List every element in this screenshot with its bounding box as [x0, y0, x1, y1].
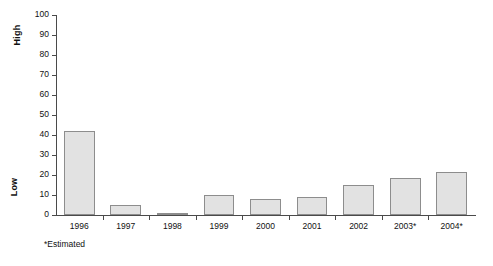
bar-slot — [103, 15, 150, 215]
x-axis-category-label: 2002 — [335, 221, 382, 231]
bar — [390, 178, 421, 215]
y-axis-low-label: Low — [9, 167, 19, 207]
x-axis-tick-mark — [335, 216, 336, 220]
y-axis-tick-label: 90 — [40, 29, 49, 39]
y-axis-tick-label: 10 — [40, 189, 49, 199]
y-axis-tick-label: 30 — [40, 149, 49, 159]
y-axis-tick: 100 — [0, 15, 56, 16]
x-axis-category-label: 2001 — [289, 221, 336, 231]
y-axis-tick-label: 0 — [44, 209, 49, 219]
y-axis-tick-label: 20 — [40, 169, 49, 179]
x-axis-category-label: 1996 — [56, 221, 103, 231]
x-axis-tick-mark — [382, 216, 383, 220]
bar — [297, 197, 328, 215]
y-axis-tick-label: 100 — [35, 9, 49, 19]
x-axis-category-label: 2000 — [242, 221, 289, 231]
y-axis-tick-label: 40 — [40, 129, 49, 139]
bar-chart-figure: High Low 0102030405060708090100 19961997… — [0, 0, 493, 266]
bar — [157, 213, 188, 215]
bar — [110, 205, 141, 215]
bar — [436, 172, 467, 215]
footnote-estimated: *Estimated — [44, 239, 85, 249]
y-axis-tick-label: 60 — [40, 89, 49, 99]
bar-slot — [196, 15, 243, 215]
y-axis-tick-label: 80 — [40, 49, 49, 59]
x-axis-tick-mark — [196, 216, 197, 220]
x-axis-tick-mark — [242, 216, 243, 220]
y-axis-tick: 80 — [0, 55, 56, 56]
y-axis-tick-label: 50 — [40, 109, 49, 119]
y-axis-tick: 0 — [0, 215, 56, 216]
y-axis-tick: 60 — [0, 95, 56, 96]
x-axis-category-label: 1997 — [103, 221, 150, 231]
x-axis-tick-mark — [149, 216, 150, 220]
bar — [343, 185, 374, 215]
y-axis-tick-mark — [52, 215, 56, 216]
bar-slot — [242, 15, 289, 215]
x-axis-category-label: 1999 — [196, 221, 243, 231]
x-axis-tick-mark — [428, 216, 429, 220]
x-axis-category-label: 2003* — [382, 221, 429, 231]
y-axis-tick: 50 — [0, 115, 56, 116]
y-axis-tick: 90 — [0, 35, 56, 36]
bar — [250, 199, 281, 215]
y-axis-tick: 10 — [0, 195, 56, 196]
y-axis-tick: 40 — [0, 135, 56, 136]
y-axis-tick: 20 — [0, 175, 56, 176]
y-axis-tick-label: 70 — [40, 69, 49, 79]
y-axis-tick: 70 — [0, 75, 56, 76]
bar-slot — [56, 15, 103, 215]
x-axis-tick-mark — [289, 216, 290, 220]
x-axis-tick-mark — [103, 216, 104, 220]
bar-slot — [335, 15, 382, 215]
plot-area — [56, 15, 475, 215]
bar-slot — [149, 15, 196, 215]
bar — [64, 131, 95, 215]
x-axis-category-label: 1998 — [149, 221, 196, 231]
bar-slot — [382, 15, 429, 215]
bar — [204, 195, 235, 215]
bar-slot — [428, 15, 475, 215]
x-axis-line — [56, 215, 476, 216]
x-axis-category-label: 2004* — [428, 221, 475, 231]
bar-slot — [289, 15, 336, 215]
y-axis-tick: 30 — [0, 155, 56, 156]
